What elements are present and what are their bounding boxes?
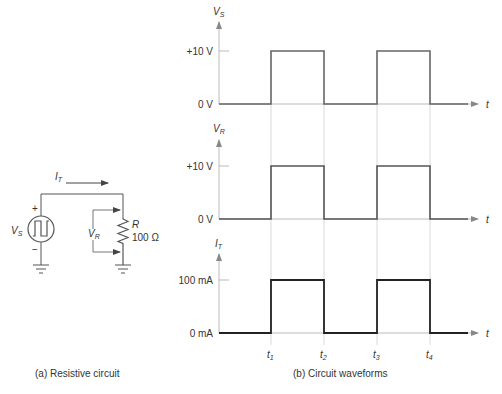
tick-t3: t3	[373, 349, 380, 361]
vr-bracket-top	[93, 210, 120, 229]
circuit-caption: (a) Resistive circuit	[35, 368, 120, 379]
tick-t4: t4	[426, 349, 433, 361]
top-wire	[41, 194, 123, 218]
plot-it: IT 100 mA 0 mA t	[179, 238, 490, 339]
source-minus-sign: −	[32, 244, 38, 255]
x-axis-label: t	[486, 214, 490, 225]
y-tick-low: 0 mA	[190, 328, 214, 339]
x-axis-label: t	[486, 99, 490, 110]
waveforms-caption: (b) Circuit waveforms	[293, 368, 387, 379]
circuit-waveforms: VS +10 V 0 V t VR +10 V 0 V t IT 100 mA …	[179, 6, 490, 379]
vr-label: VR	[88, 228, 100, 240]
y-tick-high: +10 V	[187, 161, 214, 172]
y-tick-low: 0 V	[198, 99, 213, 110]
source-plus-sign: +	[32, 203, 38, 214]
y-tick-high: 100 mA	[179, 275, 214, 286]
plot-vs: VS +10 V 0 V t	[187, 6, 490, 110]
source-label: VS	[11, 225, 23, 237]
resistor-label: R	[132, 219, 139, 230]
waveform-line	[219, 280, 468, 333]
waveform-line	[219, 51, 468, 104]
plot-title: IT	[215, 238, 223, 250]
time-gridlines	[271, 104, 430, 345]
resistor-icon	[118, 218, 128, 265]
time-tick-labels: t1 t2 t3 t4	[267, 349, 433, 361]
resistive-circuit: IT + − VS R 100 Ω VR (a)	[11, 171, 159, 379]
plot-title: VR	[213, 123, 225, 135]
ground-icon	[33, 265, 49, 273]
y-tick-high: +10 V	[187, 46, 214, 57]
plot-title: VS	[213, 6, 225, 18]
tick-t1: t1	[267, 349, 274, 361]
resistor-value: 100 Ω	[132, 232, 159, 243]
x-axis-label: t	[486, 328, 490, 339]
ground-icon	[115, 265, 131, 273]
waveform-line	[219, 166, 468, 219]
vr-bracket-bottom	[93, 240, 120, 252]
y-tick-low: 0 V	[198, 214, 213, 225]
plot-vr: VR +10 V 0 V t	[187, 123, 490, 225]
figure: IT + − VS R 100 Ω VR (a)	[0, 0, 502, 394]
current-label: IT	[55, 171, 63, 183]
tick-t2: t2	[320, 349, 327, 361]
square-wave-source-icon	[28, 216, 54, 242]
